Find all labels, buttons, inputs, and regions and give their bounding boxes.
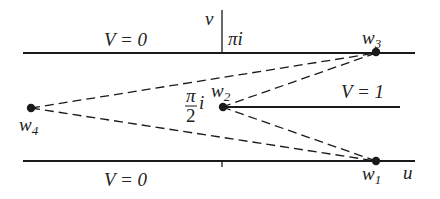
u-axis-label: u [403, 162, 413, 183]
point-w2-dot [219, 103, 227, 111]
half-pi-i: i [199, 92, 204, 113]
half-pi-denominator: 2 [186, 105, 196, 126]
v-axis-label: v [205, 8, 214, 29]
slit-label: V = 1 [341, 81, 384, 102]
point-w4-dot [27, 104, 35, 112]
top-boundary-label: V = 0 [104, 29, 148, 50]
bottom-boundary-label: V = 0 [104, 169, 148, 190]
point-w1-label: w1 [362, 163, 381, 187]
point-w3-label: w3 [362, 27, 382, 51]
point-w2-label: w2 [211, 80, 231, 104]
pi-i-label: πi [228, 28, 243, 49]
half-pi-numerator: π [186, 85, 196, 106]
point-w4-label: w4 [19, 114, 39, 138]
strip-diagram: V = 0 V = 0 V = 1 v u πi π 2 i w3 w2 w4 … [0, 0, 440, 199]
